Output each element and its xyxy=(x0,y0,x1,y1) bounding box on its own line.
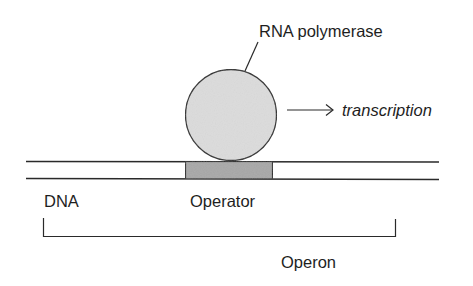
rna-polymerase-circle xyxy=(186,70,277,161)
operon-diagram: RNA polymerase transcription DNA Operato… xyxy=(0,0,473,286)
operon-bracket xyxy=(44,218,396,237)
transcription-arrow xyxy=(287,105,333,116)
operator-label: Operator xyxy=(190,192,256,210)
transcription-label: transcription xyxy=(342,101,432,119)
dna-label: DNA xyxy=(44,192,79,210)
rna-polymerase-label: RNA polymerase xyxy=(259,22,383,40)
operator-region xyxy=(186,162,273,180)
operon-label: Operon xyxy=(281,253,336,271)
rna-polymerase-leader-line xyxy=(245,42,258,71)
